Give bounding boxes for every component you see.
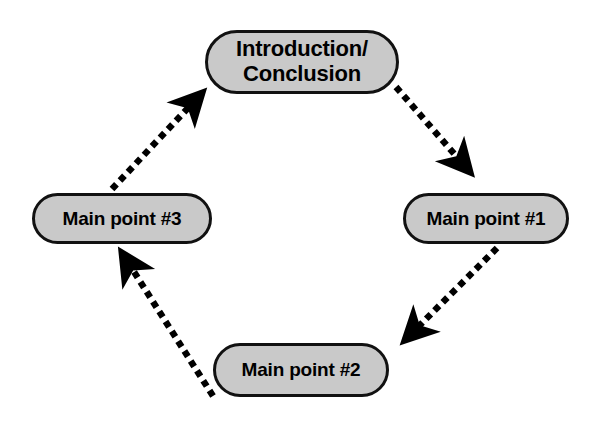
node-introduction-conclusion[interactable]: Introduction/ Conclusion: [205, 30, 399, 94]
node-main-point-3-label: Main point #3: [57, 208, 188, 229]
edge-intro-to-main-point-1: [396, 87, 470, 172]
node-main-point-3[interactable]: Main point #3: [32, 193, 212, 244]
edge-main-point-1-to-main-point-2: [405, 248, 497, 340]
node-main-point-2-label: Main point #2: [236, 359, 367, 380]
node-main-point-1-label: Main point #1: [421, 208, 552, 229]
node-introduction-conclusion-label: Introduction/ Conclusion: [230, 37, 374, 86]
diagram-canvas: Introduction/ Conclusion Main point #1 M…: [0, 0, 597, 426]
node-main-point-2[interactable]: Main point #2: [213, 343, 389, 397]
edge-main-point-3-to-intro: [112, 93, 202, 189]
edge-main-point-2-to-main-point-3: [122, 253, 213, 396]
node-main-point-1[interactable]: Main point #1: [403, 193, 569, 244]
